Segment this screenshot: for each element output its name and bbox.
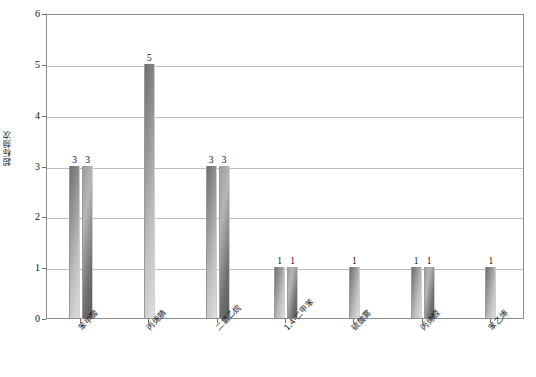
y-tick-mark: [42, 319, 46, 320]
bar-value-label: 3: [214, 155, 234, 165]
y-tick-label: 4: [18, 110, 40, 121]
bar-value-label: 1: [481, 256, 501, 266]
y-tick-label: 0: [18, 313, 40, 324]
y-tick-label: 6: [18, 8, 40, 19]
y-tick-label: 2: [18, 211, 40, 222]
bar-value-label: 1: [419, 256, 439, 266]
y-tick-label: 1: [18, 262, 40, 273]
bar: [69, 166, 80, 319]
bar-value-label: 3: [78, 155, 98, 165]
bars-layer: 33533111111: [47, 15, 523, 318]
bar: [144, 64, 155, 318]
bar-chart: 超标频次 0123456 33533111111 苯甲酸丙烯腈二氯乙烷1,4-二…: [0, 0, 536, 377]
bar: [206, 166, 217, 319]
bar: [349, 267, 360, 318]
y-axis-title: 超标频次: [4, 130, 18, 166]
y-tick-label: 5: [18, 59, 40, 70]
bar: [219, 166, 230, 319]
bar-value-label: 5: [139, 53, 159, 63]
y-tick-label: 3: [18, 161, 40, 172]
bar: [485, 267, 496, 318]
bar-value-label: 1: [283, 256, 303, 266]
bar: [82, 166, 93, 319]
bar: [274, 267, 285, 318]
bar: [411, 267, 422, 318]
plot-area: 33533111111: [46, 14, 524, 319]
bar-value-label: 1: [344, 256, 364, 266]
